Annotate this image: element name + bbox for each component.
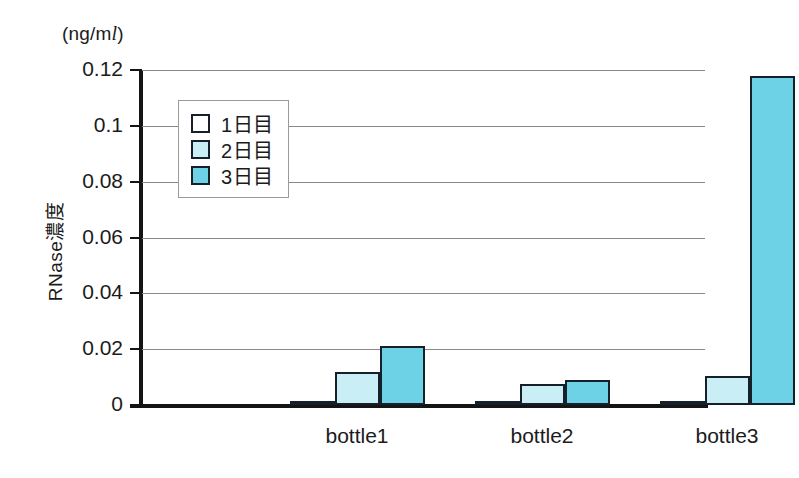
unit-caption-suffix: ) bbox=[117, 23, 124, 44]
y-axis-tick-label: 0.04 bbox=[33, 280, 123, 304]
y-axis-tick: 0.04 bbox=[130, 292, 142, 294]
y-axis-tick: 0 bbox=[130, 404, 142, 406]
legend-item[interactable]: 3日目 bbox=[191, 162, 274, 188]
legend-swatch-icon bbox=[191, 166, 210, 185]
legend-item-label: 2日目 bbox=[221, 135, 274, 164]
bar bbox=[660, 401, 705, 405]
bar bbox=[380, 346, 425, 405]
legend-swatch-icon bbox=[191, 140, 210, 159]
y-axis-tick: 0.02 bbox=[130, 348, 142, 350]
bar bbox=[565, 380, 610, 405]
legend-swatch-icon bbox=[191, 114, 210, 133]
bar bbox=[750, 76, 795, 405]
legend-item-label: 3日目 bbox=[221, 161, 274, 190]
x-axis-group-label: bottle2 bbox=[462, 424, 622, 448]
legend-item[interactable]: 2日目 bbox=[191, 136, 274, 162]
y-axis-tick-label: 0.02 bbox=[33, 336, 123, 360]
y-axis-tick: 0.08 bbox=[130, 181, 142, 183]
unit-caption: (ng/ml) bbox=[62, 22, 124, 45]
bar bbox=[520, 384, 565, 405]
bar bbox=[335, 372, 380, 406]
y-axis-tick: 0.12 bbox=[130, 69, 142, 71]
bar bbox=[475, 401, 520, 405]
bar bbox=[290, 401, 335, 405]
y-axis-tick-label: 0.08 bbox=[33, 169, 123, 193]
y-axis-tick: 0.06 bbox=[130, 237, 142, 239]
bar bbox=[705, 376, 750, 405]
y-axis-tick-label: 0.1 bbox=[33, 113, 123, 137]
y-axis-tick-label: 0.06 bbox=[33, 225, 123, 249]
x-axis-group-label: bottle1 bbox=[277, 424, 437, 448]
gridline bbox=[142, 238, 705, 239]
y-axis-tick: 0.1 bbox=[130, 125, 142, 127]
chart-legend: 1日目2日目3日目 bbox=[178, 100, 289, 198]
x-axis-group-label: bottle3 bbox=[647, 424, 799, 448]
gridline bbox=[142, 70, 705, 71]
unit-caption-prefix: (ng/m bbox=[62, 23, 112, 44]
y-axis-tick-label: 0.12 bbox=[33, 57, 123, 81]
gridline bbox=[142, 293, 705, 294]
legend-item[interactable]: 1日目 bbox=[191, 110, 274, 136]
y-axis-tick-label: 0 bbox=[33, 392, 123, 416]
y-axis-line bbox=[139, 70, 143, 408]
legend-item-label: 1日目 bbox=[221, 109, 274, 138]
